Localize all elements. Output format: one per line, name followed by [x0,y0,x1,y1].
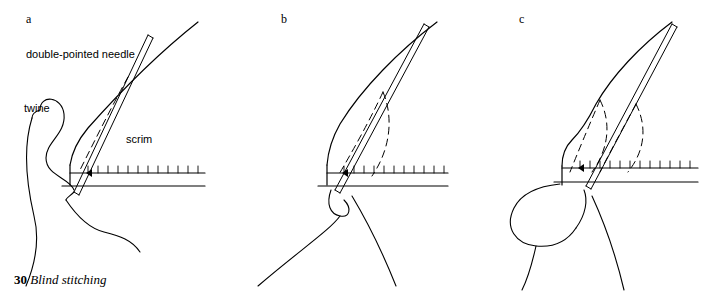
panel-b-drawing [258,22,448,286]
blind-stitching-figure [0,0,716,299]
panel-a-drawing [26,22,205,286]
figure-caption: 30 Blind stitching [14,272,106,288]
scrim-label: scrim [126,133,152,145]
panel-c-drawing [510,22,698,290]
panel-label-b: b [281,12,287,27]
panel-label-a: a [26,12,31,27]
figure-number: 30 [14,272,27,287]
double-pointed-needle-label: double-pointed needle [26,48,135,60]
panel-label-c: c [519,12,524,27]
figure-caption-text: Blind stitching [30,272,106,287]
twine-label: twine [24,102,50,114]
